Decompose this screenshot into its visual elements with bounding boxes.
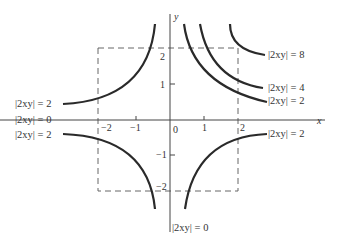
y-tick-label: 2	[160, 51, 165, 62]
y-tick-label: 1	[160, 79, 165, 90]
x-tick-label: −1	[130, 122, 141, 133]
curve-q4-c2	[185, 134, 267, 209]
y-tick-label: −1	[156, 149, 167, 160]
x-tick-label: 1	[202, 122, 207, 133]
curve-q3-c2	[63, 134, 155, 209]
x-tick-label: −2	[101, 122, 112, 133]
label-c2-upper-right: |2xy| = 2	[268, 95, 304, 106]
label-c0-left: |2xy| = 0	[15, 114, 51, 125]
level-curves-diagram: −2 −1 1 2 0 2 1 −1 −2 x y |2xy| = 8 |2xy…	[0, 0, 340, 242]
y-tick-label: −2	[156, 181, 167, 192]
label-c0-bottom: |2xy| = 0	[172, 222, 208, 233]
curve-q2-c2	[63, 24, 155, 104]
origin-label: 0	[173, 124, 178, 135]
x-axis-label: x	[316, 115, 322, 126]
label-c2-lower-left: |2xy| = 2	[15, 129, 51, 140]
label-c2-upper-left: |2xy| = 2	[15, 98, 51, 109]
curve-q1-c2	[184, 24, 267, 102]
label-c4: |2xy| = 4	[268, 82, 305, 93]
x-tick-label: 2	[240, 122, 245, 133]
y-axis-label: y	[173, 11, 179, 22]
curve-q1-c8	[230, 24, 265, 55]
label-c8: |2xy| = 8	[268, 49, 304, 60]
label-c2-lower-right: |2xy| = 2	[268, 128, 304, 139]
